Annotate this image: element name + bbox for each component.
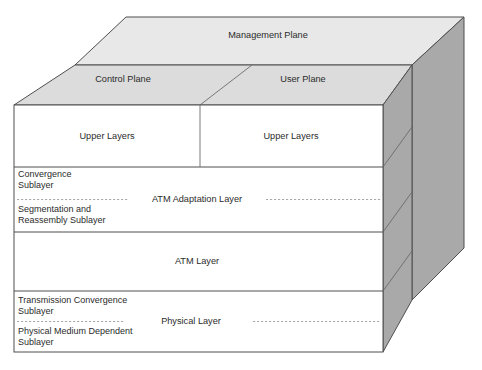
aal-sar-sublayer-line1: Segmentation and (18, 204, 91, 214)
atm-layer-label: ATM Layer (175, 256, 219, 266)
front-face-rect (14, 105, 383, 352)
physical-layer-label: Physical Layer (161, 316, 221, 326)
outer-right-side-face (412, 17, 464, 300)
atm-adaptation-layer-label: ATM Adaptation Layer (152, 194, 242, 204)
front-face-stack: Upper Layers Upper Layers Convergence Su… (14, 105, 383, 352)
upper-layers-user-label: Upper Layers (263, 131, 319, 141)
physical-pmd-sublayer-line1: Physical Medium Dependent (18, 326, 133, 336)
management-plane-label: Management Plane (228, 30, 308, 40)
management-plane-polygon (75, 17, 464, 65)
control-plane-label: Control Plane (95, 74, 151, 84)
physical-tc-sublayer-line2: Sublayer (18, 306, 54, 316)
upper-layers-control-label: Upper Layers (79, 131, 135, 141)
management-plane-face: Management Plane (75, 17, 464, 65)
control-user-plane-polygon (14, 65, 412, 105)
atm-reference-model-figure: Management Plane Control Plane User Plan… (0, 0, 482, 370)
control-user-plane-face: Control Plane User Plane (14, 65, 412, 105)
physical-pmd-sublayer-line2: Sublayer (18, 337, 54, 347)
atm-cube-diagram: Management Plane Control Plane User Plan… (0, 0, 482, 370)
aal-convergence-sublayer-line2: Sublayer (18, 180, 54, 190)
aal-convergence-sublayer-line1: Convergence (18, 169, 72, 179)
user-plane-label: User Plane (280, 74, 325, 84)
inner-right-side-face (383, 65, 412, 352)
aal-sar-sublayer-line2: Reassembly Sublayer (18, 215, 106, 225)
physical-tc-sublayer-line1: Transmission Convergence (18, 295, 127, 305)
